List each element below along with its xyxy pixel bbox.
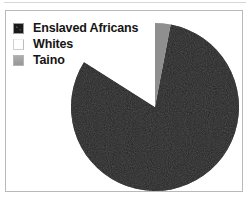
legend-item-enslaved-africans[interactable]: Enslaved Africans xyxy=(13,21,138,36)
legend-item-taino[interactable]: Taino xyxy=(13,53,138,68)
legend-label: Taino xyxy=(33,54,65,67)
legend-label: Whites xyxy=(33,38,73,51)
legend-label: Enslaved Africans xyxy=(33,22,138,35)
white-swatch-icon xyxy=(13,39,24,50)
chart-legend: Enslaved Africans Whites Taino xyxy=(13,21,138,69)
gray-swatch-icon xyxy=(13,55,24,66)
pie-chart-figure: Enslaved Africans Whites Taino xyxy=(0,0,250,198)
black-swatch-icon xyxy=(13,23,24,34)
legend-item-whites[interactable]: Whites xyxy=(13,37,138,52)
